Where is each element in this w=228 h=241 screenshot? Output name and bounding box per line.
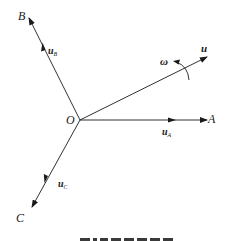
rotating-vector-label: u (201, 43, 207, 54)
origin-label: O (66, 114, 75, 126)
axis-c-line (32, 120, 80, 207)
unit-vector-c-label: uC (58, 179, 68, 190)
omega-label: ω (160, 56, 168, 67)
axis-c-label: C (16, 212, 24, 224)
vector-diagram (0, 0, 228, 241)
axis-b-line (29, 18, 80, 120)
unit-vector-b-label: uB (48, 46, 57, 57)
unit-vector-a-label: uA (162, 127, 171, 138)
rotation-arrowhead-icon (173, 60, 180, 65)
axis-b-label: B (18, 10, 25, 22)
axis-a-label: A (208, 113, 215, 125)
unit-vector-a-arrowhead (168, 118, 176, 123)
rotating-vector-u-line (80, 57, 207, 120)
